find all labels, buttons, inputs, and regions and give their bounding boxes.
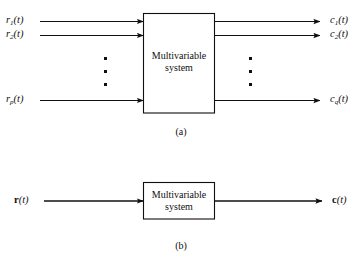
block-a-label-line1: Multivariable xyxy=(143,50,215,62)
input-label-r1: r1(t) xyxy=(6,15,24,27)
block-b-label-line2: system xyxy=(143,201,215,213)
output-label-c-vector: c(t) xyxy=(332,195,347,206)
input-label-rp: rp(t) xyxy=(6,94,24,106)
block-a-label-line2: system xyxy=(143,62,215,74)
output-ellipsis-icon xyxy=(249,57,252,86)
figure-multivariable-system: r1(t) r2(t) rp(t) c1(t) c2(t) cq(t) Mult… xyxy=(0,0,362,262)
caption-panel-a: (a) xyxy=(155,126,207,137)
input-ellipsis-icon xyxy=(104,57,107,86)
block-b-label: Multivariable system xyxy=(143,189,215,212)
output-label-cq: cq(t) xyxy=(330,94,348,106)
output-label-c2: c2(t) xyxy=(330,29,348,41)
caption-panel-b: (b) xyxy=(155,240,207,251)
block-b-label-line1: Multivariable xyxy=(143,189,215,201)
output-label-c1: c1(t) xyxy=(330,15,348,27)
block-a-label: Multivariable system xyxy=(143,50,215,73)
input-label-r-vector: r(t) xyxy=(14,195,29,206)
input-label-r2: r2(t) xyxy=(6,29,24,41)
